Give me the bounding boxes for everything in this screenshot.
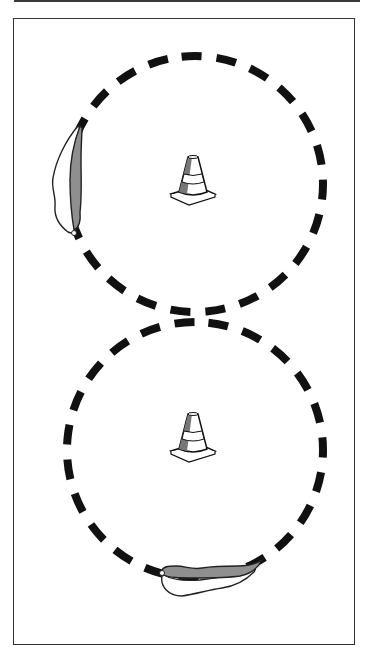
chili-pepper-icon xyxy=(160,560,263,596)
traffic-cone-icon xyxy=(171,156,215,206)
drill-diagram xyxy=(0,0,369,660)
traffic-cone-icon xyxy=(171,413,215,463)
chili-pepper-icon xyxy=(53,126,82,236)
